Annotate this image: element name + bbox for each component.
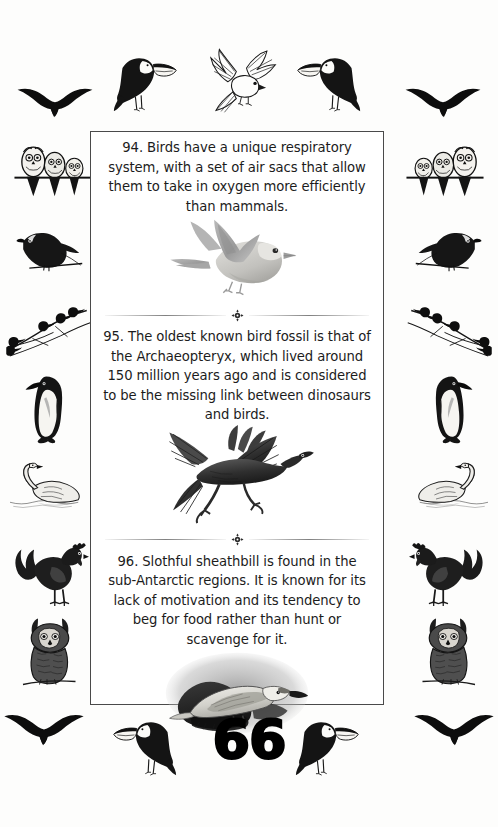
fact-text-96: 96. Slothful sheathbill is found in the … [101, 552, 373, 650]
divider-rule-right [249, 539, 370, 540]
facts-content-box: 94. Birds have a unique respiratory syst… [90, 131, 384, 705]
divider-rule-left [105, 539, 226, 540]
archaeopteryx-illustration [101, 425, 373, 525]
flying-gull [16, 82, 94, 118]
great-horned-owl [418, 617, 478, 692]
page-canvas: 94. Birds have a unique respiratory syst… [0, 0, 498, 827]
section-divider [105, 309, 369, 321]
divider-rule-right [249, 315, 370, 316]
toucan-perched-left [108, 48, 180, 114]
perched-parrot [408, 228, 484, 275]
swimming-swan [408, 460, 490, 512]
cross-fleuron-ornament [231, 533, 244, 546]
cross-fleuron-ornament [231, 309, 244, 322]
standing-rooster [10, 540, 90, 610]
page-number: 66 [0, 712, 498, 768]
flying-songbird-illustration [101, 216, 373, 300]
great-horned-owl [20, 617, 80, 692]
fact-entry-95: 95. The oldest known bird fossil is that… [101, 327, 373, 525]
standing-rooster [408, 540, 488, 610]
perched-parrot [14, 228, 90, 275]
king-penguin [422, 372, 474, 446]
three-owls-on-branch [12, 134, 94, 198]
fact-text-94: 94. Birds have a unique respiratory syst… [101, 138, 373, 216]
king-penguin [24, 372, 76, 446]
section-divider [105, 534, 369, 546]
landing-bird-center [207, 46, 281, 114]
birds-on-bare-branch [404, 300, 492, 363]
fact-entry-94: 94. Birds have a unique respiratory syst… [101, 138, 373, 300]
swimming-swan [8, 460, 90, 512]
divider-rule-left [105, 315, 226, 316]
birds-on-bare-branch [6, 300, 94, 363]
three-owls-on-branch [404, 134, 486, 198]
toucan-perched-right [294, 48, 366, 114]
fact-text-95: 95. The oldest known bird fossil is that… [101, 327, 373, 425]
flying-gull [404, 82, 482, 118]
